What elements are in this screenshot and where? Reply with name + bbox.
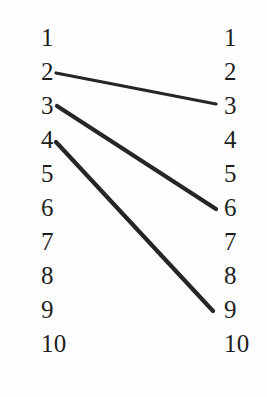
right-node-10[interactable]: 10 [224, 331, 249, 356]
left-node-5[interactable]: 5 [41, 161, 54, 186]
left-node-6[interactable]: 6 [41, 195, 54, 220]
left-node-10[interactable]: 10 [41, 331, 66, 356]
left-node-1[interactable]: 1 [41, 25, 54, 50]
left-node-2[interactable]: 2 [41, 59, 54, 84]
right-node-5[interactable]: 5 [224, 161, 237, 186]
left-column: 12345678910 [41, 0, 101, 397]
left-node-9[interactable]: 9 [41, 297, 54, 322]
left-node-4[interactable]: 4 [41, 127, 54, 152]
right-node-6[interactable]: 6 [224, 195, 237, 220]
bipartite-diagram: 12345678910 12345678910 [0, 0, 267, 397]
right-node-1[interactable]: 1 [224, 25, 237, 50]
right-node-9[interactable]: 9 [224, 297, 237, 322]
left-node-8[interactable]: 8 [41, 263, 54, 288]
right-node-2[interactable]: 2 [224, 59, 237, 84]
left-node-7[interactable]: 7 [41, 229, 54, 254]
right-node-8[interactable]: 8 [224, 263, 237, 288]
right-node-7[interactable]: 7 [224, 229, 237, 254]
left-node-3[interactable]: 3 [41, 93, 54, 118]
right-node-4[interactable]: 4 [224, 127, 237, 152]
right-column: 12345678910 [224, 0, 267, 397]
right-node-3[interactable]: 3 [224, 93, 237, 118]
